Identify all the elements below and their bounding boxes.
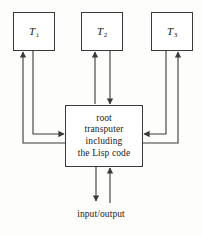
leaf-node-t1-label: T1 <box>29 26 39 37</box>
root-node-label: root transputer including the Lisp code <box>78 113 130 159</box>
io-label: input/output <box>0 209 202 220</box>
connector-root-to-leaf1 <box>23 52 65 143</box>
leaf-node-t2-label: T2 <box>97 26 107 37</box>
leaf-node-t3: T3 <box>151 12 193 51</box>
leaf-node-t2: T2 <box>81 12 123 51</box>
connector-root-to-leaf3 <box>143 52 178 143</box>
leaf-node-t1: T1 <box>13 12 55 51</box>
root-node: root transputer including the Lisp code <box>65 105 143 167</box>
connector-leaf3-to-root <box>144 51 166 134</box>
leaf-node-t3-label: T3 <box>167 26 177 37</box>
connector-leaf1-to-root <box>33 51 64 134</box>
diagram-canvas: T1 T2 T3 root transputer including the L… <box>0 0 202 236</box>
